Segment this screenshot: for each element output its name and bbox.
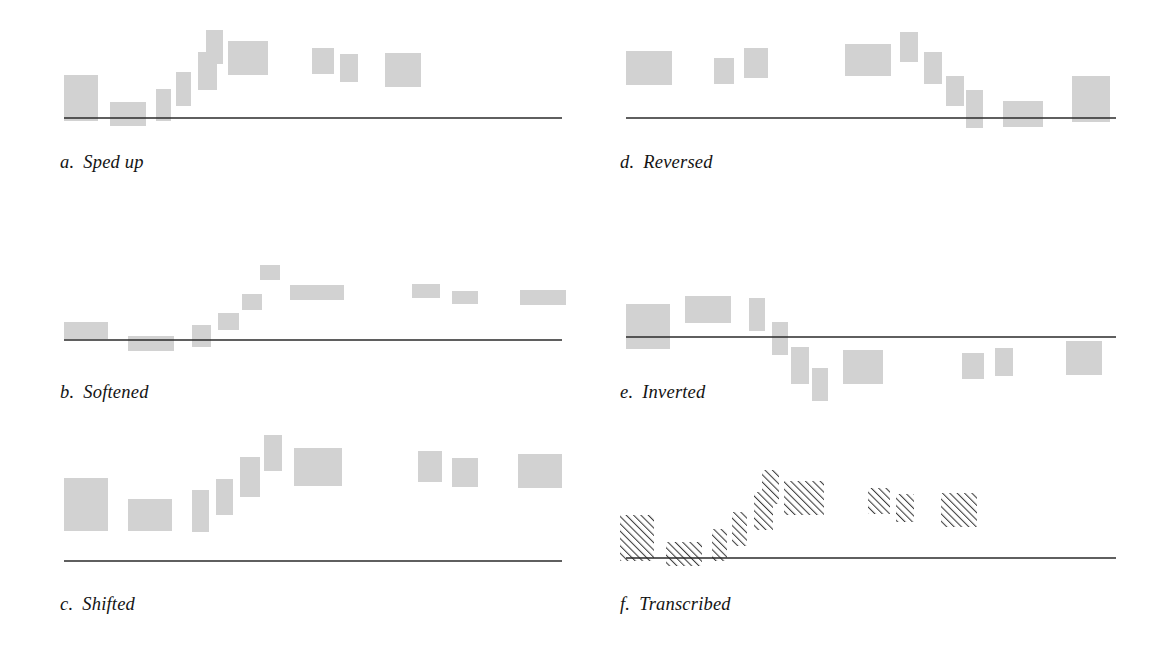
panel-e-block (626, 304, 670, 349)
panel-label-letter-b: b. (60, 382, 74, 403)
panel-c-block (294, 448, 342, 486)
panel-e-block (791, 347, 809, 384)
panel-f-block (666, 542, 702, 566)
panel-d-block (946, 76, 964, 106)
panel-f (620, 470, 1116, 566)
panel-c-block (418, 451, 442, 482)
panel-b-block (260, 265, 280, 280)
panel-e-block (1066, 341, 1102, 375)
panel-d-block (900, 32, 918, 62)
panel-d-block (924, 52, 942, 84)
panel-e-block (995, 348, 1013, 376)
panel-label-letter-e: e. (620, 382, 633, 403)
panel-d-block (714, 58, 734, 84)
panel-a-block (110, 102, 146, 126)
panel-b-block (452, 291, 478, 304)
panel-f-block (896, 494, 914, 522)
panel-label-title-d: Reversed (643, 152, 712, 173)
panel-a-block (156, 89, 171, 121)
panel-d-block (1003, 101, 1043, 127)
panel-f-block (732, 512, 747, 546)
panel-label-title-c: Shifted (82, 594, 135, 615)
panel-d-block (626, 51, 672, 85)
panel-c-block (192, 490, 209, 532)
panel-label-c: c.Shifted (60, 594, 135, 615)
panel-c-block (64, 478, 108, 531)
panel-a-block (385, 53, 421, 87)
panel-b-block (290, 285, 344, 300)
figure-svg (0, 0, 1160, 648)
panel-a-block (340, 54, 358, 82)
panel-label-e: e.Inverted (620, 382, 705, 403)
panel-b-block (64, 322, 108, 339)
panel-label-a: a.Sped up (60, 152, 144, 173)
panel-label-title-e: Inverted (642, 382, 705, 403)
panel-e-block (962, 353, 984, 379)
panel-f-block (784, 481, 824, 515)
panel-a-block (312, 48, 334, 74)
panel-label-title-f: Transcribed (639, 594, 731, 615)
panel-c-block (240, 457, 260, 497)
panel-c-block (216, 479, 233, 515)
panel-d (626, 32, 1116, 128)
panel-a-block (64, 75, 98, 121)
panel-b-block (412, 284, 440, 298)
panel-d-block (744, 48, 768, 78)
figure-container: a.Sped upb.Softenedc.Shiftedd.Reversede.… (0, 0, 1160, 648)
panel-b-block (218, 313, 239, 330)
panel-a-block (228, 41, 268, 75)
panel-label-f: f.Transcribed (620, 594, 731, 615)
panel-a-block (176, 72, 191, 106)
panel-c (64, 435, 562, 561)
panel-label-b: b.Softened (60, 382, 149, 403)
panel-e-block (843, 350, 883, 384)
panel-label-letter-c: c. (60, 594, 73, 615)
panel-f-block (868, 488, 890, 514)
panel-label-d: d.Reversed (620, 152, 713, 173)
panel-b-block (242, 294, 262, 310)
panel-e-block (749, 298, 765, 331)
panel-e-block (685, 296, 731, 323)
panel-a (64, 30, 562, 126)
panel-label-letter-a: a. (60, 152, 74, 173)
panel-b-block (520, 290, 566, 305)
panel-c-block (128, 499, 172, 531)
panel-b-block (192, 325, 211, 347)
panel-d-block (1072, 76, 1110, 122)
panel-f-block (620, 515, 654, 561)
panel-f-block (712, 529, 727, 561)
panel-c-block (264, 435, 282, 471)
panel-f-block (762, 470, 779, 504)
panel-b-block (128, 336, 174, 351)
panel-e-block (772, 322, 788, 355)
panel-e-block (812, 368, 828, 401)
panel-f-block (941, 493, 977, 527)
panel-label-letter-d: d. (620, 152, 634, 173)
panel-label-title-a: Sped up (83, 152, 144, 173)
panel-b (64, 265, 566, 351)
panels-layer (64, 30, 1116, 566)
panel-d-block (966, 90, 983, 128)
panel-c-block (518, 454, 562, 488)
panel-c-block (452, 458, 478, 487)
panel-label-title-b: Softened (83, 382, 148, 403)
panel-label-letter-f: f. (620, 594, 630, 615)
panel-a-block (206, 30, 223, 64)
panel-d-block (845, 44, 891, 76)
